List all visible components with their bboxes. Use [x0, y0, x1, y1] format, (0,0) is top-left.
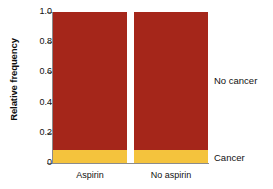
bar-segment-cancer	[53, 150, 127, 163]
x-axis-line	[52, 163, 209, 164]
bar-group	[53, 12, 127, 163]
series-label-no-cancer: No cancer	[214, 75, 257, 86]
x-axis-label-aspirin: Aspirin	[53, 170, 127, 180]
x-axis-label-no-aspirin: No aspirin	[134, 170, 208, 180]
y-tick-label: 0	[8, 158, 52, 167]
bar-group	[134, 12, 208, 163]
plot-area	[53, 12, 208, 163]
y-tick-label: 0.4	[8, 98, 52, 107]
bar-segment-cancer	[134, 150, 208, 163]
y-tick-label: 0.8	[8, 37, 52, 46]
y-tick-label: 1.0	[8, 7, 52, 16]
bar-segment-no-cancer	[134, 12, 208, 150]
y-tick-label: 0.6	[8, 67, 52, 76]
stacked-bar-chart: Relative frequency 1.00.80.60.40.20 Aspi…	[0, 0, 273, 189]
y-tick-label: 0.2	[8, 128, 52, 137]
series-label-cancer: Cancer	[214, 152, 245, 163]
bar-segment-no-cancer	[53, 12, 127, 150]
